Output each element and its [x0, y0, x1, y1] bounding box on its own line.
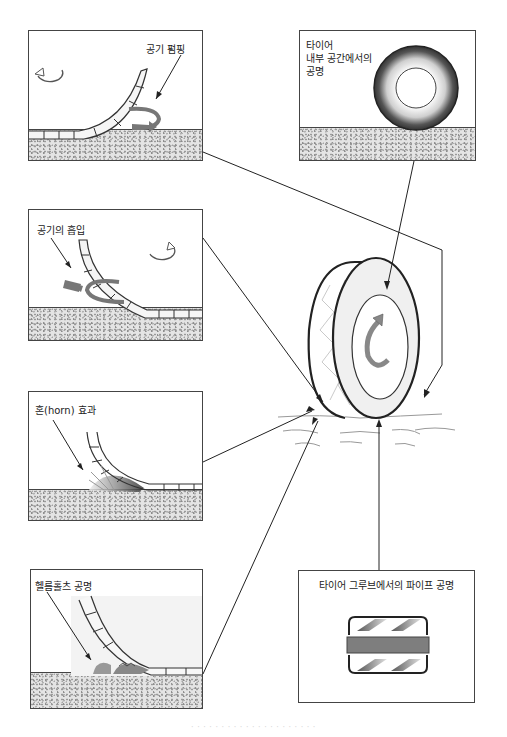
figure-caption: · · · · · · · · · · · · · · · · · · · · … — [0, 723, 507, 732]
road-lines — [278, 414, 455, 446]
connector-lines — [203, 152, 442, 674]
tire-rim — [352, 295, 408, 399]
central-tire-diagram — [0, 0, 507, 737]
